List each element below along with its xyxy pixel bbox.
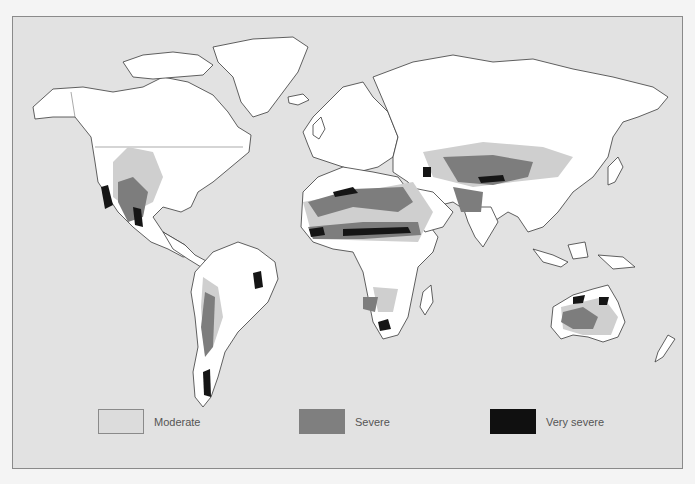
iceland bbox=[288, 94, 309, 105]
india bbox=[463, 207, 498, 247]
indonesia bbox=[533, 242, 635, 269]
japan bbox=[608, 157, 623, 185]
world-map bbox=[13, 17, 684, 470]
greenland bbox=[213, 37, 308, 117]
arctic-islands bbox=[123, 52, 213, 79]
map-frame: Moderate Severe Very severe bbox=[12, 16, 683, 469]
madagascar bbox=[420, 285, 433, 315]
new-zealand bbox=[655, 335, 675, 362]
